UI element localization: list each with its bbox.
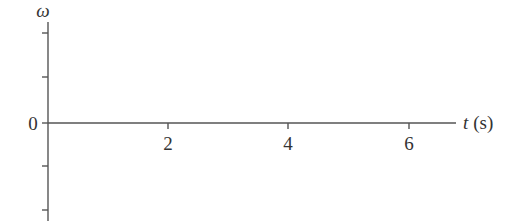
angular-velocity-graph: 2 4 6 0 ω t(s) [0, 0, 515, 221]
y-axis-label: ω [36, 0, 49, 21]
y-tick-label-0: 0 [28, 113, 38, 134]
x-tick-label-6: 6 [404, 133, 414, 154]
x-axis-label: t(s) [463, 112, 493, 134]
x-axis-label-var: t [463, 112, 469, 133]
x-tick-label-4: 4 [283, 133, 293, 154]
x-axis-label-unit: (s) [473, 112, 493, 134]
x-tick-label-2: 2 [163, 133, 173, 154]
